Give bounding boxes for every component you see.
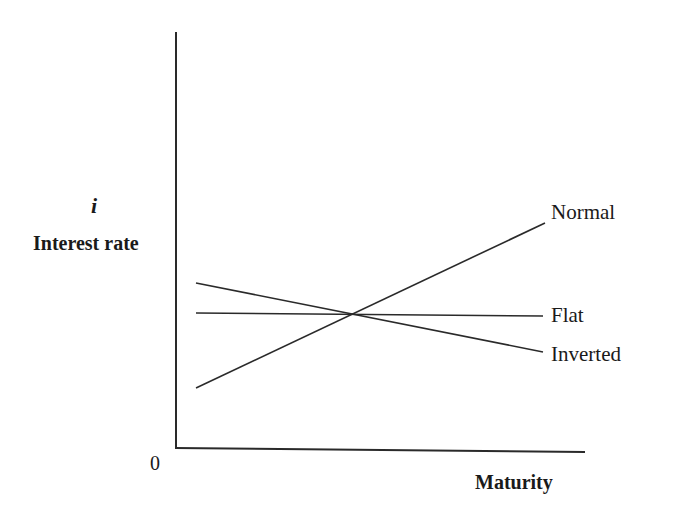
normal-label: Normal bbox=[551, 200, 615, 224]
y-axis-symbol: i bbox=[91, 193, 98, 218]
x-axis-label: Maturity bbox=[475, 471, 553, 494]
chart-canvas: Normal Flat Inverted i Interest rate 0 M… bbox=[0, 0, 678, 522]
origin-label: 0 bbox=[150, 452, 160, 474]
flat-label: Flat bbox=[551, 303, 584, 327]
inverted-curve bbox=[196, 283, 543, 352]
yield-curve-chart: Normal Flat Inverted i Interest rate 0 M… bbox=[0, 0, 678, 522]
normal-curve bbox=[196, 223, 545, 388]
x-axis bbox=[175, 448, 585, 452]
inverted-label: Inverted bbox=[551, 342, 621, 366]
flat-curve bbox=[196, 313, 543, 316]
y-axis-label: Interest rate bbox=[33, 232, 139, 254]
